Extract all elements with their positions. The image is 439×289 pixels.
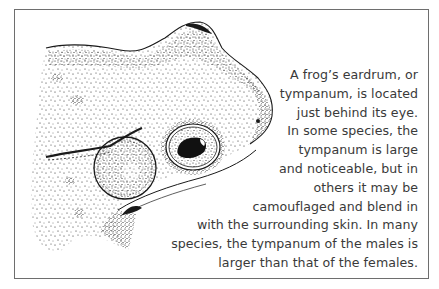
caption-line: others it may be xyxy=(118,179,418,198)
caption-line: just behind its eye. xyxy=(118,104,418,123)
caption-line: tympanum is large xyxy=(118,141,418,160)
caption-line: A frog’s eardrum, or xyxy=(118,66,418,85)
caption-line: tympanum, is located xyxy=(118,85,418,104)
caption-text: A frog’s eardrum, or tympanum, is locate… xyxy=(118,66,418,273)
caption-line: with the surrounding skin. In many xyxy=(118,216,418,235)
caption-line: camouflaged and blend in xyxy=(118,198,418,217)
caption-line: larger than that of the females. xyxy=(118,254,418,273)
caption-line: and noticeable, but in xyxy=(118,160,418,179)
caption-line: species, the tympanum of the males is xyxy=(118,235,418,254)
caption-line: In some species, the xyxy=(118,122,418,141)
